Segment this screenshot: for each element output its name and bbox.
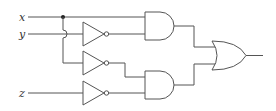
wire-x-branch	[63, 17, 83, 63]
wire-and1-or	[174, 26, 217, 47]
not-gate-2	[83, 51, 109, 75]
input-label-y: y	[18, 28, 26, 41]
and-gate-1	[145, 12, 174, 40]
input-label-x: x	[19, 11, 26, 24]
wire-and2-or	[174, 64, 217, 85]
not-gate-1	[83, 22, 109, 46]
and-gate-2	[145, 71, 174, 99]
input-label-z: z	[18, 87, 25, 100]
wire-not2-and2	[109, 63, 145, 77]
not-gate-3	[83, 81, 109, 105]
logic-circuit-diagram: x y z	[0, 0, 276, 111]
or-gate	[212, 41, 246, 70]
